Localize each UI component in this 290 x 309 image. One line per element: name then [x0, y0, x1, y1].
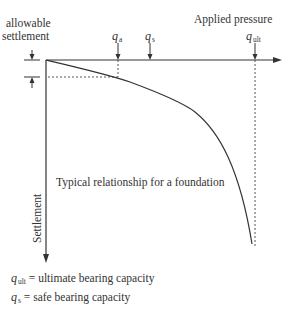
legend-qult-text: = ultimate bearing capacity [29, 272, 155, 284]
legend-qs-symbol: q [11, 290, 17, 304]
allowable-settlement-label-line2: settlement [2, 30, 49, 43]
qs-arrow-icon [148, 54, 153, 60]
marker-qult: qult [246, 30, 261, 46]
down-arrow-icon [30, 54, 35, 60]
curve-annotation: Typical relationship for a foundation [56, 176, 224, 189]
marker-qa: qa [112, 30, 122, 46]
settlement-curve [46, 60, 252, 244]
legend-qult: qult = ultimate bearing capacity [11, 272, 154, 288]
y-axis-label: Settlement [31, 194, 44, 243]
qult-arrow-icon [253, 54, 258, 60]
marker-qa-symbol: q [112, 29, 118, 43]
legend-qs-text: = safe bearing capacity [24, 291, 130, 303]
legend-qs: qs = safe bearing capacity [11, 291, 130, 307]
marker-qult-subscript: ult [253, 35, 261, 44]
legend-qult-symbol: q [11, 271, 17, 285]
legend-qult-subscript: ult [18, 277, 26, 286]
marker-qult-symbol: q [246, 29, 252, 43]
x-axis-arrowhead-icon [273, 57, 282, 63]
qa-arrow-icon [116, 54, 121, 60]
marker-qs-symbol: q [145, 29, 151, 43]
marker-qs: qs [145, 30, 155, 46]
allowable-settlement-label-line1: allowable [6, 17, 51, 30]
x-axis-label: Applied pressure [194, 13, 272, 26]
marker-qa-subscript: a [119, 35, 122, 44]
legend-qs-subscript: s [18, 296, 21, 305]
diagram-canvas [0, 0, 290, 309]
marker-qs-subscript: s [152, 35, 155, 44]
y-axis-arrowhead-icon [43, 254, 49, 263]
up-arrow-icon [30, 77, 35, 83]
